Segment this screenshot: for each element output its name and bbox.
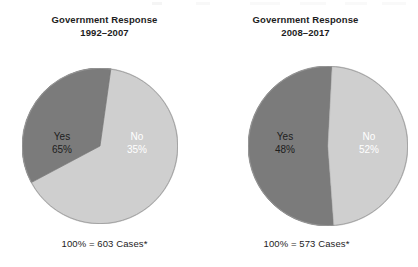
pie-label-no-1992-2007: No 35% bbox=[112, 131, 162, 156]
pie-label-no-pct: 35% bbox=[112, 144, 162, 157]
pie-label-yes-pct: 65% bbox=[30, 144, 94, 157]
panel-title-line1: Government Response bbox=[0, 14, 209, 27]
footnote-2008-2017: 100% = 573 Cases* bbox=[209, 238, 404, 250]
panel-title-line2: 1992–2007 bbox=[0, 27, 209, 40]
footnote-1992-2007: 100% = 603 Cases* bbox=[0, 238, 209, 250]
pie-label-yes-text: Yes bbox=[253, 131, 317, 144]
pie-label-yes-1992-2007: Yes 65% bbox=[30, 131, 94, 156]
pie-label-yes-pct: 48% bbox=[253, 144, 317, 157]
pie-label-no-2008-2017: No 52% bbox=[343, 131, 395, 156]
panel-title-line1: Government Response bbox=[205, 14, 406, 27]
figure-canvas: Government Response 1992–2007 Yes 65% No… bbox=[0, 0, 418, 267]
pie-label-yes-2008-2017: Yes 48% bbox=[253, 131, 317, 156]
panel-title-1992-2007: Government Response 1992–2007 bbox=[0, 14, 209, 39]
chart-panel-1992-2007: Government Response 1992–2007 Yes 65% No… bbox=[0, 0, 209, 267]
chart-panel-2008-2017: Government Response 2008–2017 Yes 48% No… bbox=[209, 0, 418, 267]
pie-label-no-pct: 52% bbox=[343, 144, 395, 157]
pie-label-no-text: No bbox=[112, 131, 162, 144]
pie-label-yes-text: Yes bbox=[30, 131, 94, 144]
pie-label-no-text: No bbox=[343, 131, 395, 144]
panel-title-2008-2017: Government Response 2008–2017 bbox=[205, 14, 406, 39]
panel-title-line2: 2008–2017 bbox=[205, 27, 406, 40]
